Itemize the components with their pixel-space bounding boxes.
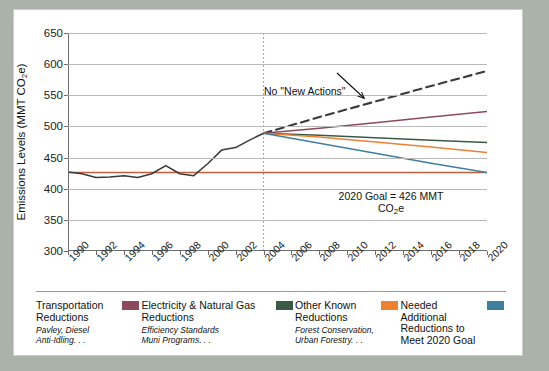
legend-item-other-known[interactable]: Other Known Reductions Forest Conservati… bbox=[295, 300, 401, 352]
y-tick-mark bbox=[64, 95, 68, 96]
gridline bbox=[68, 126, 487, 127]
y-tick-label: 500 bbox=[44, 120, 63, 132]
y-axis-label-prefix: Emissions Levels (MMT CO bbox=[15, 78, 27, 220]
y-tick-label: 600 bbox=[44, 58, 63, 70]
y-tick-label: 400 bbox=[44, 183, 63, 195]
y-tick-label: 350 bbox=[44, 214, 63, 226]
y-tick-mark bbox=[64, 158, 68, 159]
legend-item-transportation[interactable]: Transportation Reductions Pavley, Diesel… bbox=[36, 300, 142, 352]
legend-title-line1: Needed Additional bbox=[401, 300, 481, 323]
gridline bbox=[68, 220, 487, 221]
legend-divider bbox=[36, 291, 506, 292]
legend-sub-line1: Forest Conservation, bbox=[295, 325, 381, 335]
y-tick-mark bbox=[64, 33, 68, 34]
legend-item-needed-additional[interactable]: Needed Additional Reductions to Meet 202… bbox=[401, 300, 507, 352]
legend-title-line1: Transportation bbox=[36, 300, 116, 312]
legend-title-line2: Reductions bbox=[295, 312, 375, 324]
annotation-2020-goal: 2020 Goal = 426 MMT CO2e bbox=[311, 190, 471, 216]
gridline bbox=[68, 64, 487, 65]
y-tick-mark bbox=[64, 126, 68, 127]
y-axis-label: Emissions Levels (MMT CO2e) bbox=[15, 64, 29, 221]
legend-sub-line1: Efficiency Standards bbox=[142, 325, 275, 335]
goal-text-line1: 2020 Goal = 426 MMT bbox=[339, 190, 444, 202]
legend-title-line2: Reductions to bbox=[401, 323, 481, 335]
gridline bbox=[68, 158, 487, 159]
legend-item-electricity[interactable]: Electricity & Natural Gas Reductions Eff… bbox=[142, 300, 295, 352]
gridline bbox=[68, 33, 487, 34]
legend-sub-transportation: Pavley, Diesel Anti-Idling. . . bbox=[36, 325, 142, 345]
goal-text-line2: CO2e bbox=[311, 202, 471, 216]
y-axis-label-subscript: 2 bbox=[20, 74, 29, 78]
chart-legend: Transportation Reductions Pavley, Diesel… bbox=[36, 300, 506, 352]
legend-title-line2: Reductions bbox=[36, 312, 116, 324]
y-tick-mark bbox=[64, 189, 68, 190]
y-tick-label: 450 bbox=[44, 152, 63, 164]
legend-title-line3: Meet 2020 Goal bbox=[401, 335, 481, 347]
legend-sub-other-known: Forest Conservation, Urban Forestry. . . bbox=[295, 325, 401, 345]
legend-sub-line2: Urban Forestry. . . bbox=[295, 335, 381, 345]
legend-swatch-other-known bbox=[381, 301, 398, 310]
x-tick-label: 2020 bbox=[485, 238, 510, 263]
legend-swatch-electricity bbox=[276, 301, 293, 310]
legend-swatch-transportation bbox=[122, 301, 139, 310]
y-tick-mark bbox=[64, 220, 68, 221]
emissions-chart: Emissions Levels (MMT CO2e) 300350400450… bbox=[68, 33, 487, 251]
legend-title-line1: Other Known bbox=[295, 300, 375, 312]
legend-title-electricity: Electricity & Natural Gas Reductions bbox=[142, 300, 295, 323]
figure-page: Emissions Levels (MMT CO2e) 300350400450… bbox=[14, 10, 522, 355]
y-tick-label: 650 bbox=[44, 27, 63, 39]
legend-title-line2: Reductions bbox=[142, 312, 269, 324]
legend-sub-line2: Anti-Idling. . . bbox=[36, 335, 122, 345]
plot-area bbox=[68, 33, 487, 251]
legend-sub-electricity: Efficiency Standards Muni Programs. . . bbox=[142, 325, 295, 345]
y-tick-label: 550 bbox=[44, 89, 63, 101]
y-axis-label-suffix: e) bbox=[15, 64, 27, 74]
legend-sub-line2: Muni Programs. . . bbox=[142, 335, 275, 345]
annotation-no-new-actions: No "New Actions" bbox=[264, 85, 346, 97]
y-tick-mark bbox=[64, 64, 68, 65]
legend-swatch-needed-additional bbox=[487, 301, 504, 310]
y-tick-label: 300 bbox=[44, 245, 63, 257]
legend-title-line1: Electricity & Natural Gas bbox=[142, 300, 269, 312]
legend-sub-line1: Pavley, Diesel bbox=[36, 325, 122, 335]
